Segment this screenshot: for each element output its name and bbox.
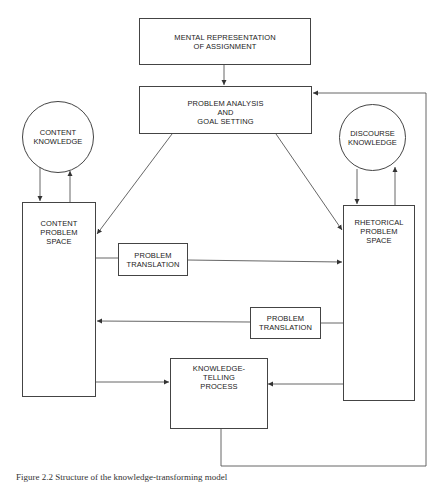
arrow-translation-to-rhetorical <box>187 260 342 262</box>
content-problem-space-box: CONTENT PROBLEM SPACE <box>22 202 96 397</box>
rhetorical-problem-space-box: RHETORICAL PROBLEM SPACE <box>343 205 415 401</box>
problem-analysis-label-1: PROBLEM ANALYSIS <box>140 99 311 108</box>
knowledge-telling-label-1: KNOWLEDGE- <box>171 364 267 373</box>
problem-analysis-box: PROBLEM ANALYSIS AND GOAL SETTING <box>139 86 312 134</box>
discourse-knowledge-label-2: KNOWLEDGE <box>348 138 397 147</box>
arrow-analysis-to-rhetorical <box>276 134 342 230</box>
problem-analysis-label-2: AND <box>140 108 311 117</box>
rhetorical-problem-space-label-1: RHETORICAL <box>344 218 414 227</box>
problem-translation-2-label-1: PROBLEM <box>251 314 320 323</box>
problem-translation-2-label-2: TRANSLATION <box>251 323 320 332</box>
rhetorical-problem-space-label-3: SPACE <box>344 236 414 245</box>
figure-caption: Figure 2.2 Structure of the knowledge-tr… <box>16 472 227 482</box>
content-problem-space-label-1: CONTENT <box>23 219 95 228</box>
mental-representation-label-1: MENTAL REPRESENTATION <box>140 33 310 42</box>
mental-representation-box: MENTAL REPRESENTATION OF ASSIGNMENT <box>139 18 311 65</box>
problem-analysis-label-3: GOAL SETTING <box>140 117 311 126</box>
mental-representation-label-2: OF ASSIGNMENT <box>140 42 310 51</box>
rhetorical-problem-space-label-2: PROBLEM <box>344 227 414 236</box>
problem-translation-1-label-2: TRANSLATION <box>119 260 187 269</box>
arrow-translation-to-content <box>97 321 250 322</box>
content-knowledge-label-1: CONTENT <box>34 128 83 137</box>
discourse-knowledge-circle: DISCOURSE KNOWLEDGE <box>339 104 406 171</box>
problem-translation-1-label-1: PROBLEM <box>119 251 187 260</box>
discourse-knowledge-label-1: DISCOURSE <box>348 129 397 138</box>
knowledge-telling-box: KNOWLEDGE- TELLING PROCESS <box>170 358 268 429</box>
content-knowledge-circle: CONTENT KNOWLEDGE <box>22 101 94 173</box>
problem-translation-box-2: PROBLEM TRANSLATION <box>250 307 321 339</box>
arrow-analysis-to-content <box>97 134 172 234</box>
content-problem-space-label-3: SPACE <box>23 237 95 246</box>
content-problem-space-label-2: PROBLEM <box>23 228 95 237</box>
knowledge-telling-label-3: PROCESS <box>171 382 267 391</box>
problem-translation-box-1: PROBLEM TRANSLATION <box>118 243 188 276</box>
content-knowledge-label-2: KNOWLEDGE <box>34 137 83 146</box>
knowledge-telling-label-2: TELLING <box>171 373 267 382</box>
